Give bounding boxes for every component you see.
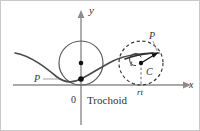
trochoid-figure: y x 0 Trochoid P P C t rt	[0, 0, 200, 131]
x-axis-label: x	[189, 80, 193, 90]
y-axis-label: y	[89, 5, 94, 16]
leader-line-right-p	[153, 41, 157, 51]
center-c-label: C	[146, 67, 153, 77]
dot-center-c	[139, 61, 143, 65]
y-axis	[78, 10, 85, 125]
point-p-left-label: P	[34, 74, 40, 84]
arc-length-rt-label: rt	[137, 88, 143, 97]
dot-point-p-left	[78, 76, 84, 82]
figure-canvas	[1, 1, 200, 131]
angle-t-label: t	[130, 59, 133, 68]
curve-name-label: Trochoid	[87, 95, 127, 106]
origin-label: 0	[71, 95, 76, 105]
dot-left-circle-center	[79, 61, 84, 66]
point-p-right-label: P	[149, 31, 155, 41]
